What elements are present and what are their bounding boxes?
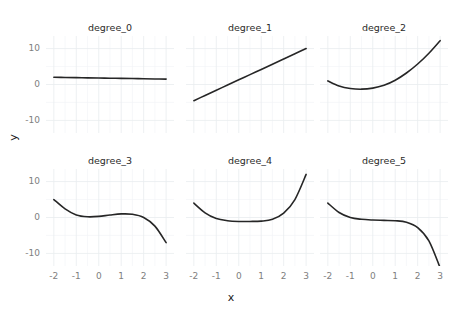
plot-panel xyxy=(186,169,314,266)
x-tick-label: -1 xyxy=(69,270,83,282)
curve-degree_0 xyxy=(54,77,166,79)
x-tick-label: 1 xyxy=(114,270,128,282)
y-tick-group: -10010 xyxy=(10,169,44,266)
y-tick-group: -10010 xyxy=(10,36,44,133)
facet-degree_4: degree_4 xyxy=(186,155,314,266)
x-tick-label: -1 xyxy=(343,270,357,282)
x-tick-label: -2 xyxy=(321,270,335,282)
x-tick-label: 2 xyxy=(277,270,291,282)
x-tick-label: 0 xyxy=(92,270,106,282)
facet-strip-label: degree_1 xyxy=(186,22,314,34)
x-tick-label: 0 xyxy=(366,270,380,282)
facet-degree_2: degree_2 xyxy=(320,22,448,133)
x-tick-label: -2 xyxy=(47,270,61,282)
facet-strip-label: degree_3 xyxy=(46,155,174,167)
x-tick-label: 1 xyxy=(254,270,268,282)
x-axis-title: x xyxy=(0,291,462,304)
x-tick-label: 0 xyxy=(232,270,246,282)
x-tick-group: -2-10123 xyxy=(320,270,448,282)
x-tick-group: -2-10123 xyxy=(186,270,314,282)
plot-panel xyxy=(186,36,314,133)
y-tick-label: 10 xyxy=(29,177,40,186)
x-tick-label: -2 xyxy=(187,270,201,282)
x-tick-label: 3 xyxy=(159,270,173,282)
y-tick-label: 10 xyxy=(29,44,40,53)
x-tick-label: -1 xyxy=(209,270,223,282)
x-tick-label: 2 xyxy=(137,270,151,282)
facet-strip-label: degree_4 xyxy=(186,155,314,167)
x-tick-label: 1 xyxy=(388,270,402,282)
chart-figure: y x degree_0degree_1degree_2degree_3degr… xyxy=(0,0,462,313)
y-tick-label: 0 xyxy=(34,213,40,222)
plot-panel xyxy=(320,36,448,133)
x-tick-group: -2-10123 xyxy=(46,270,174,282)
y-tick-label: 0 xyxy=(34,80,40,89)
x-tick-label: 2 xyxy=(411,270,425,282)
facet-degree_0: degree_0 xyxy=(46,22,174,133)
plot-panel xyxy=(46,169,174,266)
facet-degree_5: degree_5 xyxy=(320,155,448,266)
plot-panel xyxy=(320,169,448,266)
x-tick-label: 3 xyxy=(433,270,447,282)
y-tick-label: -10 xyxy=(25,249,40,258)
facet-strip-label: degree_2 xyxy=(320,22,448,34)
x-tick-label: 3 xyxy=(299,270,313,282)
y-tick-label: -10 xyxy=(25,116,40,125)
facet-strip-label: degree_5 xyxy=(320,155,448,167)
facet-degree_1: degree_1 xyxy=(186,22,314,133)
plot-panel xyxy=(46,36,174,133)
facet-strip-label: degree_0 xyxy=(46,22,174,34)
facet-degree_3: degree_3 xyxy=(46,155,174,266)
